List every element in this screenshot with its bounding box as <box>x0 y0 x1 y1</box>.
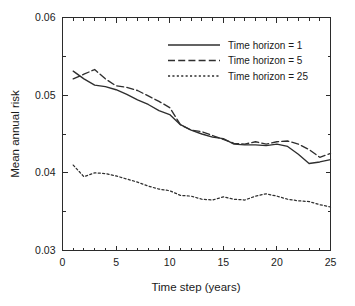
y-axis-title: Mean annual risk <box>9 90 21 178</box>
data-series-group <box>73 70 330 207</box>
x-axis-title: Time step (years) <box>151 281 240 293</box>
y-tick-label: 0.03 <box>35 244 56 256</box>
chart-figure: 0.030.040.050.06 0510152025 Time horizon… <box>0 0 355 306</box>
x-axis-ticks <box>63 18 331 251</box>
y-tick-label: 0.06 <box>35 11 56 23</box>
x-tick-label: 5 <box>113 256 119 268</box>
chart-legend: Time horizon = 1Time horizon = 5Time hor… <box>168 40 308 82</box>
x-axis-tick-labels: 0510152025 <box>60 256 337 268</box>
legend-label-1: Time horizon = 5 <box>228 55 303 66</box>
legend-label-2: Time horizon = 25 <box>228 71 308 82</box>
x-tick-label: 0 <box>60 256 66 268</box>
y-axis-tick-labels: 0.030.040.050.06 <box>35 11 56 256</box>
plot-frame <box>63 18 331 251</box>
series-line-1 <box>73 70 330 158</box>
line-chart: 0.030.040.050.06 0510152025 Time horizon… <box>0 0 355 306</box>
y-tick-label: 0.05 <box>35 89 56 101</box>
x-tick-label: 25 <box>325 256 337 268</box>
series-line-0 <box>73 71 330 163</box>
x-tick-label: 15 <box>217 256 229 268</box>
y-tick-label: 0.04 <box>35 166 56 178</box>
x-tick-label: 20 <box>271 256 283 268</box>
legend-label-0: Time horizon = 1 <box>228 40 303 51</box>
y-axis-ticks <box>63 18 331 251</box>
series-line-2 <box>73 165 330 207</box>
x-tick-label: 10 <box>164 256 176 268</box>
